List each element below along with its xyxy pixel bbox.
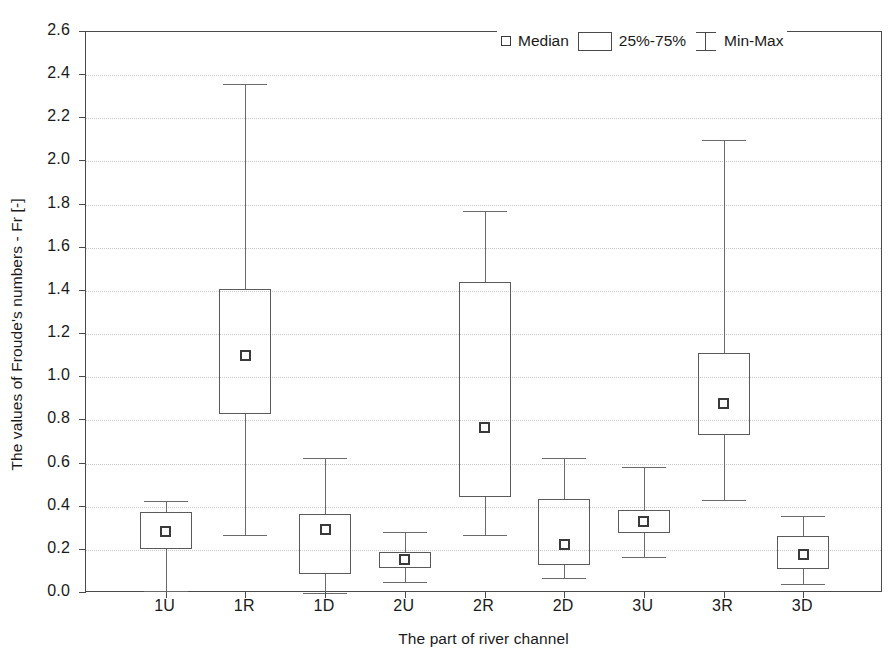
legend-label-iqr: 25%-75% xyxy=(619,32,686,50)
i-beam-icon xyxy=(695,31,717,52)
x-axis-tick-label-3r: 3R xyxy=(693,597,753,615)
y-axis-tick-label: 2.2 xyxy=(10,107,70,125)
whisker-lower xyxy=(803,569,804,584)
x-axis-tick-label-2r: 2R xyxy=(454,597,514,615)
y-axis-tick-label: 0.0 xyxy=(10,582,70,600)
x-axis-tick-label-1d: 1D xyxy=(294,597,354,615)
x-axis-tick-label-1r: 1R xyxy=(214,597,274,615)
y-axis-tick xyxy=(79,419,86,420)
y-axis-tick-label: 0.6 xyxy=(10,453,70,471)
y-axis-tick xyxy=(79,74,86,75)
y-axis-tick xyxy=(79,333,86,334)
y-axis-tick xyxy=(79,376,86,377)
y-axis-tick xyxy=(79,592,86,593)
y-axis-tick xyxy=(79,463,86,464)
whisker-upper xyxy=(803,516,804,535)
box-plot-figure: The values of Froude's numbers - Fr [-] … xyxy=(0,0,891,669)
median-marker-icon xyxy=(501,36,511,46)
box-plot-3d xyxy=(86,32,881,591)
x-axis-tick-label-3u: 3U xyxy=(613,597,673,615)
y-axis-tick xyxy=(79,247,86,248)
y-axis-tick xyxy=(79,290,86,291)
median-marker xyxy=(798,549,809,560)
y-axis-tick xyxy=(79,506,86,507)
plot-area xyxy=(85,31,882,592)
y-axis-tick-label: 2.6 xyxy=(10,21,70,39)
x-axis-tick-label-1u: 1U xyxy=(135,597,195,615)
y-axis-tick-label: 1.0 xyxy=(10,366,70,384)
y-axis-tick-label: 1.2 xyxy=(10,323,70,341)
y-axis-tick-label: 0.2 xyxy=(10,539,70,557)
y-axis-tick xyxy=(79,549,86,550)
x-axis-tick-label-2u: 2U xyxy=(374,597,434,615)
y-axis-tick-label: 0.4 xyxy=(10,496,70,514)
box-rectangle-icon xyxy=(578,32,612,51)
y-axis-tick-label: 2.0 xyxy=(10,150,70,168)
legend-entry-minmax: Min-Max xyxy=(695,31,783,52)
y-axis-tick-label: 0.8 xyxy=(10,409,70,427)
x-axis-tick-label-2d: 2D xyxy=(533,597,593,615)
y-axis-tick-label: 1.8 xyxy=(10,194,70,212)
x-axis-tick-label-3d: 3D xyxy=(772,597,832,615)
legend-entry-iqr: 25%-75% xyxy=(578,32,686,51)
legend-label-minmax: Min-Max xyxy=(724,32,783,50)
y-axis-tick xyxy=(79,160,86,161)
y-axis-tick xyxy=(79,31,86,32)
y-axis-tick-label: 1.4 xyxy=(10,280,70,298)
legend-entry-median: Median xyxy=(501,32,569,50)
y-axis-tick-label: 1.6 xyxy=(10,237,70,255)
y-axis-tick xyxy=(79,204,86,205)
whisker-cap-max xyxy=(781,516,825,517)
x-axis-title: The part of river channel xyxy=(85,630,882,648)
y-axis-tick xyxy=(79,117,86,118)
whisker-cap-min xyxy=(781,584,825,585)
chart-legend: Median 25%-75% Min-Max xyxy=(497,26,787,56)
legend-label-median: Median xyxy=(518,32,569,50)
y-axis-tick-label: 2.4 xyxy=(10,64,70,82)
